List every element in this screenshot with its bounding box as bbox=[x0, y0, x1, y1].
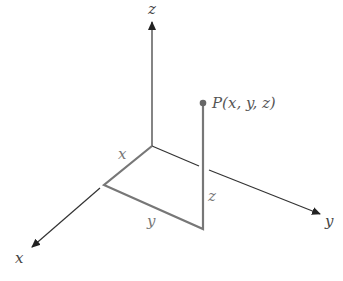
y-component-label: y bbox=[146, 212, 156, 230]
point-p-label: P(x, y, z) bbox=[211, 94, 276, 112]
x-axis-label: x bbox=[15, 249, 24, 267]
z-component-label: z bbox=[207, 187, 216, 205]
x-component-label: x bbox=[118, 145, 127, 163]
y-axis bbox=[209, 170, 320, 214]
coordinate-diagram: z y x P(x, y, z) x y z bbox=[0, 0, 343, 281]
y-axis-label: y bbox=[324, 212, 334, 230]
y-axis-segment-back bbox=[152, 146, 199, 166]
z-axis-label: z bbox=[147, 0, 156, 18]
x-axis bbox=[32, 188, 100, 247]
point-p bbox=[200, 100, 207, 107]
projection-path bbox=[104, 103, 203, 229]
